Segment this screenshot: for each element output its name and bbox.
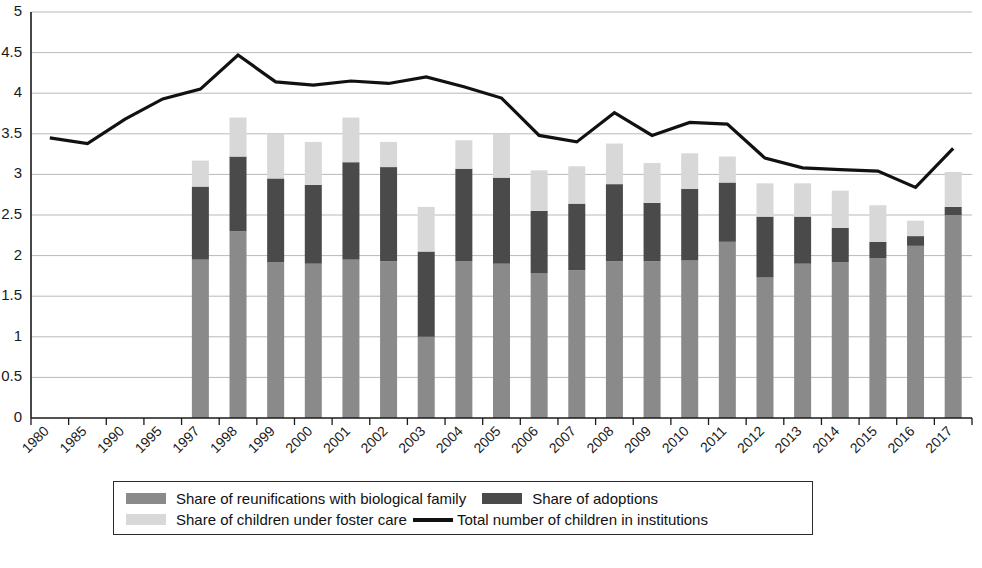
bar-segment [832, 191, 849, 228]
bar-segment [832, 228, 849, 262]
bar-segment [305, 142, 322, 185]
bar-segment [230, 231, 247, 418]
legend-line-total-institutions [413, 518, 453, 522]
x-axis-tick-label: 2010 [658, 423, 691, 456]
x-axis-tick-label: 1998 [207, 423, 240, 456]
x-axis-tick-label: 2012 [734, 423, 767, 456]
bar-segment [568, 270, 585, 418]
bar-segment [342, 118, 359, 163]
legend-swatch-adoptions [482, 493, 522, 504]
y-axis-tick-label: 2.5 [1, 205, 22, 222]
bar-segment [531, 170, 548, 211]
x-axis-tick-label: 2009 [621, 423, 654, 456]
legend-item-adoptions: Share of adoptions [482, 491, 658, 506]
y-axis-tick-label: 3.5 [1, 124, 22, 141]
bar-segment [869, 242, 886, 258]
x-axis-tick-label: 2006 [508, 423, 541, 456]
stacked-bar-line-chart: 00.511.522.533.544.55 198019851990199519… [0, 0, 982, 568]
bar-segment [568, 204, 585, 271]
bar-segment [681, 260, 698, 418]
bar-segment [907, 236, 924, 246]
x-axis-tick-label: 2002 [357, 423, 390, 456]
bar-segment [230, 157, 247, 232]
x-axis-tick-label: 2008 [583, 423, 616, 456]
bar-segment [455, 261, 472, 418]
x-axis-tick-label: 2005 [470, 423, 503, 456]
bar-segment [455, 169, 472, 262]
bar-segment [794, 183, 811, 216]
bar-segment [681, 189, 698, 260]
legend-swatch-reunifications [126, 493, 166, 504]
bar-segment [756, 217, 773, 278]
legend-swatch-foster-care [126, 514, 166, 525]
x-axis-tick-label: 2011 [697, 423, 730, 456]
bar-segment [794, 264, 811, 418]
bar-segment [380, 142, 397, 167]
bar-segment [794, 217, 811, 264]
bar-segment [380, 261, 397, 418]
bar-segment [945, 172, 962, 207]
bar-segment [192, 260, 209, 418]
bars-layer [192, 118, 962, 418]
y-axis-tick-label: 3 [14, 164, 22, 181]
bar-segment [681, 153, 698, 189]
y-axis-tick-label: 4.5 [1, 43, 22, 60]
bar-segment [418, 207, 435, 252]
bar-segment [192, 187, 209, 260]
bar-segment [606, 184, 623, 261]
bar-segment [907, 246, 924, 418]
bar-segment [719, 183, 736, 242]
bar-segment [267, 134, 284, 179]
y-axis-tick-label: 2 [14, 246, 22, 263]
y-axis-tick-label: 0.5 [1, 367, 22, 384]
legend-label-reunifications: Share of reunifications with biological … [176, 491, 466, 506]
bar-segment [531, 211, 548, 274]
y-axis-tick-labels: 00.511.522.533.544.55 [1, 2, 22, 425]
x-axis-tick-label: 2001 [320, 423, 353, 456]
legend-item-total-institutions: Total number of children in institutions [413, 512, 708, 527]
bar-segment [945, 207, 962, 215]
chart-legend: Share of reunifications with biological … [113, 481, 813, 535]
legend-row-2: Share of children under foster care Tota… [126, 509, 802, 530]
y-axis-tick-label: 0 [14, 408, 22, 425]
bar-segment [380, 167, 397, 261]
legend-label-total-institutions: Total number of children in institutions [457, 512, 708, 527]
x-axis-tick-label: 2003 [395, 423, 428, 456]
x-axis-tick-label: 2007 [546, 423, 579, 456]
bar-segment [342, 260, 359, 418]
bar-segment [644, 203, 661, 261]
bar-segment [418, 337, 435, 418]
x-axis-tick-label: 1980 [19, 423, 52, 456]
x-axis-tick-label: 1997 [169, 423, 202, 456]
x-axis-tick-label: 2017 [922, 423, 955, 456]
bar-segment [719, 242, 736, 418]
legend-row-1: Share of reunifications with biological … [126, 488, 802, 509]
x-axis-tick-label: 1985 [56, 423, 89, 456]
bar-segment [644, 163, 661, 203]
bar-segment [945, 215, 962, 418]
bar-segment [493, 134, 510, 178]
bar-segment [418, 252, 435, 337]
bar-segment [267, 178, 284, 262]
bar-segment [606, 261, 623, 418]
x-axis-tick-labels: 1980198519901995199719981999200020012002… [19, 423, 956, 456]
bar-segment [493, 178, 510, 264]
bar-segment [305, 264, 322, 418]
bar-segment [869, 258, 886, 418]
x-axis-tick-label: 2016 [884, 423, 917, 456]
bar-segment [493, 264, 510, 418]
legend-label-adoptions: Share of adoptions [532, 491, 658, 506]
bar-segment [869, 205, 886, 242]
bar-segment [305, 185, 322, 264]
bar-segment [230, 118, 247, 157]
x-axis-tick-label: 1990 [94, 423, 127, 456]
x-axis-tick-label: 2004 [433, 423, 466, 456]
bar-segment [644, 261, 661, 418]
x-axis-tick-label: 1995 [132, 423, 165, 456]
y-axis-tick-label: 4 [14, 83, 22, 100]
bar-segment [342, 162, 359, 259]
bar-segment [192, 161, 209, 187]
bar-segment [568, 166, 585, 203]
bar-segment [756, 183, 773, 216]
bar-segment [756, 278, 773, 418]
